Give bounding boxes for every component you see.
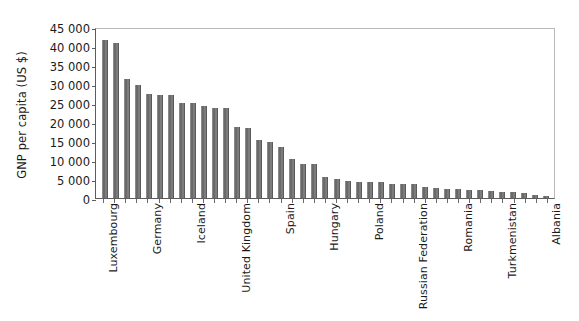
bar: [389, 184, 395, 198]
y-axis-tick-label: 20 000: [16, 117, 96, 131]
bar: [234, 127, 240, 198]
x-axis-label-slot: [120, 203, 131, 318]
y-axis-tick-label: 15 000: [16, 136, 96, 150]
x-axis-label-slot: [531, 203, 542, 318]
x-axis-label-slot: [298, 203, 309, 318]
bar: [356, 182, 362, 198]
bar: [102, 40, 108, 198]
x-axis-label-slot: [342, 203, 353, 318]
bar-slot: [298, 29, 309, 198]
bar-slot: [110, 29, 121, 198]
x-axis-label-slot: [176, 203, 187, 318]
bar: [543, 196, 549, 198]
bar: [488, 191, 494, 198]
bar-slot: [497, 29, 508, 198]
bar-slot: [453, 29, 464, 198]
x-axis-label-slot: [153, 203, 164, 318]
bar-slot: [364, 29, 375, 198]
y-axis-tick-label: 40 000: [16, 41, 96, 55]
x-axis-label-slot: [253, 203, 264, 318]
bar-slot: [287, 29, 298, 198]
x-axis-label-slot: [198, 203, 209, 318]
x-axis-label-slot: [486, 203, 497, 318]
bar: [532, 195, 538, 198]
bar-slot: [320, 29, 331, 198]
bar-slot: [430, 29, 441, 198]
bar: [521, 193, 527, 198]
bar-slot: [143, 29, 154, 198]
x-axis-label-slot: [475, 203, 486, 318]
x-axis-label-slot: Romania: [453, 203, 464, 318]
x-axis-label-slot: [220, 203, 231, 318]
bar: [157, 95, 163, 198]
y-axis-tick-label: 35 000: [16, 60, 96, 74]
bar: [378, 182, 384, 198]
bar-slot: [408, 29, 419, 198]
bar: [267, 142, 273, 198]
bar-slot: [441, 29, 452, 198]
bar-slot: [187, 29, 198, 198]
x-axis-label-slot: Iceland: [187, 203, 198, 318]
bar: [135, 85, 141, 198]
bar-series: [96, 29, 554, 198]
bar-slot: [309, 29, 320, 198]
bar-slot: [397, 29, 408, 198]
bar-slot: [243, 29, 254, 198]
bar-slot: [99, 29, 110, 198]
x-axis-label-slot: [508, 203, 519, 318]
x-axis-label-slot: [242, 203, 253, 318]
bar: [334, 179, 340, 198]
x-axis-label-slot: [264, 203, 275, 318]
x-axis-label-slot: [109, 203, 120, 318]
gnp-per-capita-bar-chart: GNP per capita (US $) 05 00010 00015 000…: [0, 0, 579, 321]
x-axis-label-slot: United Kingdom: [231, 203, 242, 318]
bar-slot: [154, 29, 165, 198]
x-axis-label-slot: [464, 203, 475, 318]
bar: [201, 106, 207, 198]
x-axis-label-slot: [331, 203, 342, 318]
x-axis-label-slot: [420, 203, 431, 318]
x-axis-label-slot: [165, 203, 176, 318]
bar-slot: [209, 29, 220, 198]
bar-slot: [530, 29, 541, 198]
bar: [422, 187, 428, 198]
bar: [345, 181, 351, 198]
x-axis-label-slot: [309, 203, 320, 318]
bar-slot: [221, 29, 232, 198]
plot-area: 05 00010 00015 00020 00025 00030 00035 0…: [95, 28, 555, 199]
bar: [499, 192, 505, 198]
bar: [322, 177, 328, 198]
bar: [466, 190, 472, 198]
y-axis-tick-label: 10 000: [16, 155, 96, 169]
x-axis-label-slot: [353, 203, 364, 318]
bar-slot: [132, 29, 143, 198]
bar-slot: [176, 29, 187, 198]
bar: [256, 140, 262, 198]
x-axis-label-slot: Russian Federation: [409, 203, 420, 318]
bar: [179, 103, 185, 198]
y-axis-tick-label: 45 000: [16, 22, 96, 36]
x-axis-label-slot: Albania: [542, 203, 553, 318]
bar-slot: [375, 29, 386, 198]
bar-slot: [386, 29, 397, 198]
bar: [367, 182, 373, 198]
bar-slot: [475, 29, 486, 198]
bar: [124, 79, 130, 198]
x-axis-label-slot: [442, 203, 453, 318]
bar-slot: [419, 29, 430, 198]
x-axis-label-slot: [386, 203, 397, 318]
x-axis-label-slot: [287, 203, 298, 318]
bar-slot: [276, 29, 287, 198]
x-axis-label-slot: [209, 203, 220, 318]
x-axis-label-slot: [520, 203, 531, 318]
bar: [510, 192, 516, 198]
bar-slot: [464, 29, 475, 198]
x-axis-label-slot: [375, 203, 386, 318]
bar: [190, 103, 196, 198]
bar: [212, 108, 218, 198]
bar: [223, 108, 229, 198]
y-axis-tick-label: 0: [16, 193, 96, 207]
bar: [146, 94, 152, 198]
x-axis-label-slot: [398, 203, 409, 318]
bar: [433, 188, 439, 198]
